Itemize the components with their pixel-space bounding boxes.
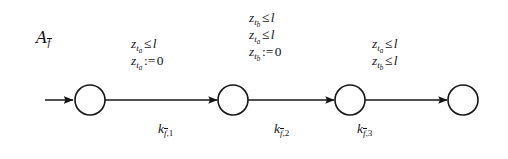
relational-operator: ≤ — [383, 53, 393, 68]
relational-operator: ≤ — [142, 36, 152, 51]
assign-operator: := — [260, 44, 274, 59]
transition-name-3: kf,3 — [357, 122, 372, 138]
guard-line: zta≤l — [372, 37, 398, 54]
transition-guards-2: ztb≤l zta≤l ztb:=0 — [249, 11, 282, 62]
assign-operator: := — [142, 53, 156, 68]
state-node-s3 — [448, 85, 478, 115]
state-node-s2 — [335, 85, 365, 115]
relational-operator: ≤ — [260, 27, 270, 42]
transition-name-1: kf,1 — [158, 122, 173, 138]
guard-line: zta≤l — [131, 37, 164, 54]
automaton-name-subscript: f — [48, 38, 51, 48]
state-node-s1 — [218, 85, 248, 115]
guard-line: ztb:=0 — [249, 45, 282, 62]
transition-guards-3: zta≤l ztb≤l — [372, 37, 398, 71]
relational-operator: ≤ — [260, 10, 270, 25]
guard-line: ztb≤l — [372, 54, 398, 71]
relational-operator: ≤ — [383, 36, 393, 51]
automaton-name-base: A — [36, 28, 48, 47]
guard-line: zta:=0 — [131, 54, 164, 71]
timed-automaton-figure: Af zta≤l zta:=0 ztb≤l zta≤l ztb:=0 zta≤l… — [0, 0, 508, 159]
transition-guards-1: zta≤l zta:=0 — [131, 37, 164, 71]
transition-name-2: kf,2 — [274, 122, 289, 138]
guard-line: ztb≤l — [249, 11, 282, 28]
state-node-s0 — [75, 85, 105, 115]
guard-line: zta≤l — [249, 28, 282, 45]
automaton-name-label: Af — [36, 30, 50, 49]
